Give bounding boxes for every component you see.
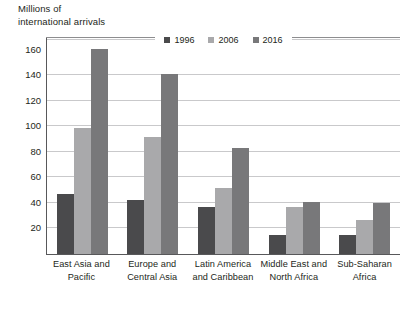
- bar-2016-2: [232, 148, 249, 254]
- bar-group: [329, 37, 400, 254]
- bar-2016-4: [373, 203, 390, 254]
- grouped-bar-chart: 20406080100120140160 199620062016 East A…: [0, 0, 419, 315]
- bar-groups: [47, 37, 400, 254]
- y-axis-tick-140: 140: [25, 69, 41, 80]
- y-axis-tick-80: 80: [30, 145, 41, 156]
- category-label-1: Europe and Central Asia: [117, 258, 188, 284]
- bar-group: [47, 37, 118, 254]
- bar-2006-3: [286, 207, 303, 254]
- y-axis-tick-160: 160: [25, 43, 41, 54]
- bar-1996-2: [198, 207, 215, 254]
- category-label-4: Sub-Saharan Africa: [329, 258, 400, 284]
- bar-1996-1: [127, 200, 144, 254]
- bar-2006-4: [356, 220, 373, 254]
- bar-1996-4: [339, 235, 356, 254]
- bar-2006-0: [74, 128, 91, 254]
- bar-1996-3: [269, 235, 286, 254]
- bar-2016-0: [91, 49, 108, 255]
- bar-2016-3: [303, 202, 320, 254]
- y-axis-tick-100: 100: [25, 120, 41, 131]
- bar-2006-1: [144, 137, 161, 254]
- y-axis-tick-120: 120: [25, 94, 41, 105]
- bar-1996-0: [57, 194, 74, 254]
- bar-group: [188, 37, 259, 254]
- bar-group: [259, 37, 330, 254]
- plot-area: 20406080100120140160 199620062016: [46, 37, 400, 255]
- bar-group: [118, 37, 189, 254]
- y-axis-tick-20: 20: [30, 222, 41, 233]
- y-axis-tick-40: 40: [30, 196, 41, 207]
- bar-2016-1: [161, 74, 178, 254]
- y-axis-tick-60: 60: [30, 171, 41, 182]
- category-axis-labels: East Asia and PacificEurope and Central …: [46, 258, 400, 284]
- category-label-0: East Asia and Pacific: [46, 258, 117, 284]
- bar-2006-2: [215, 188, 232, 254]
- category-label-2: Latin America and Caribbean: [188, 258, 259, 284]
- category-label-3: Middle East and North Africa: [258, 258, 329, 284]
